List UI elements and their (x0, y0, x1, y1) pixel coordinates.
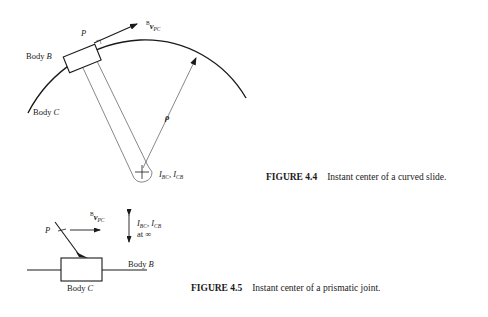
figure-4-5-caption-text: Instant center of a prismatic joint. (252, 283, 380, 293)
body-b-label-fig45: Body B (128, 260, 154, 269)
body-c-block (61, 258, 102, 281)
figure-4-5-drawing (0, 0, 488, 317)
slanted-link (55, 222, 80, 256)
velocity-label-fig45: BvPC (90, 212, 104, 224)
figure-4-5-caption: FIGURE 4.5Instant center of a prismatic … (191, 284, 380, 294)
at-infinity-label: at ∞ (137, 230, 151, 239)
figure-4-5-number: FIGURE 4.5 (191, 283, 242, 293)
instant-center-label-fig45: IBC, ICB (137, 219, 161, 230)
point-p-label-fig45: P (45, 226, 50, 235)
body-c-label-fig45: Body C (67, 284, 93, 293)
